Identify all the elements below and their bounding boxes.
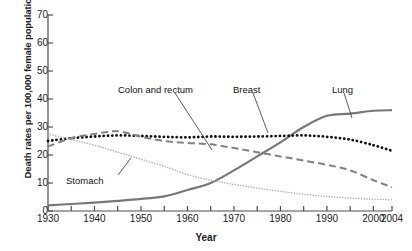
chart-container: Death rates per 100,000 female populatio… (0, 0, 412, 251)
series-line-breast (48, 135, 392, 150)
annotation-leader-line (253, 93, 268, 133)
annotation-leader-line (175, 93, 212, 150)
annotation-leader-line (118, 158, 131, 175)
line-chart-plot (0, 0, 412, 251)
series-line-lung (48, 110, 392, 205)
